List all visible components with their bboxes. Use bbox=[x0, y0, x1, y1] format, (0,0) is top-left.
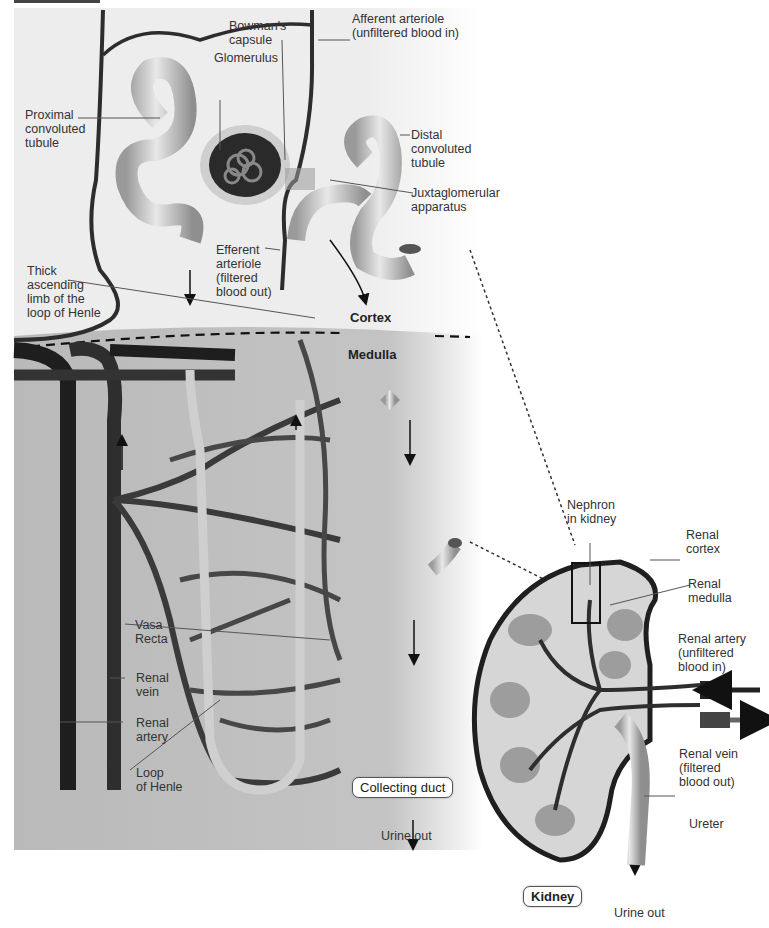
label-loop-of-henle: Loop of Henle bbox=[136, 766, 183, 794]
label-glomerulus: Glomerulus bbox=[214, 51, 278, 65]
label-renal-artery: Renal artery bbox=[136, 716, 169, 744]
label-efferent-arteriole: Efferent arteriole (filtered blood out) bbox=[216, 243, 272, 299]
label-kidney: Kidney bbox=[523, 886, 582, 907]
label-cortex: Cortex bbox=[350, 310, 391, 325]
label-renal-vein-kidney: Renal vein (filtered blood out) bbox=[679, 747, 738, 789]
label-urine-out-ureter: Urine out bbox=[614, 906, 665, 920]
label-ureter: Ureter bbox=[689, 817, 724, 831]
label-renal-artery-kidney: Renal artery (unfiltered blood in) bbox=[678, 632, 746, 674]
label-urine-out-duct: Urine out bbox=[381, 829, 432, 843]
label-proximal-convoluted-tubule: Proximal convoluted tubule bbox=[25, 108, 85, 150]
nephron-kidney-diagram: Bowman's capsule Glomerulus Afferent art… bbox=[0, 0, 769, 928]
label-afferent-arteriole: Afferent arteriole (unfiltered blood in) bbox=[352, 12, 459, 40]
label-distal-convoluted-tubule: Distal convoluted tubule bbox=[411, 128, 471, 170]
label-vasa-recta: Vasa Recta bbox=[135, 618, 168, 646]
label-collecting-duct: Collecting duct bbox=[352, 777, 453, 798]
label-renal-cortex: Renal cortex bbox=[686, 528, 720, 556]
label-medulla: Medulla bbox=[348, 347, 396, 362]
label-thick-ascending-limb: Thick ascending limb of the loop of Henl… bbox=[27, 264, 101, 320]
label-renal-vein: Renal vein bbox=[136, 671, 169, 699]
label-bowmans-capsule: Bowman's capsule bbox=[229, 19, 286, 47]
label-renal-medulla: Renal medulla bbox=[688, 577, 732, 605]
label-nephron-in-kidney: Nephron in kidney bbox=[567, 498, 616, 526]
label-juxtaglomerular-apparatus: Juxtaglomerular apparatus bbox=[411, 186, 500, 214]
